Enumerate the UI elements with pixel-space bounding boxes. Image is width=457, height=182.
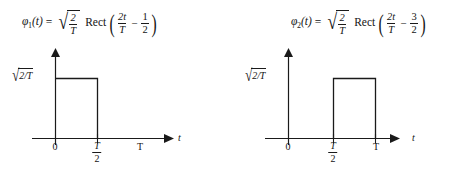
plot-svg-phi1: [0, 0, 228, 182]
origin-label: 0: [286, 141, 291, 152]
basis-function-figure-pair: φ1(t) = √ 2 T Rect ( 2t T − 1 2: [0, 0, 457, 182]
y-axis-arrow-icon: [284, 48, 293, 57]
y-axis-arrow-icon: [51, 48, 60, 57]
x-axis-label: t: [412, 132, 415, 143]
tick-numerator: T: [92, 141, 102, 152]
y-axis-amplitude-label: √ 2/T: [243, 68, 266, 85]
plot-phi2: √ 2/T 0 T 2 T t: [229, 0, 457, 182]
radical-sign: √: [245, 67, 252, 84]
panel-phi2: φ2(t) = √ 2 T Rect ( 2t T − 3 2: [229, 0, 457, 182]
origin-label: 0: [53, 141, 58, 152]
tick-denominator: 2: [329, 152, 338, 164]
y-axis-amplitude-label: √ 2/T: [10, 68, 33, 85]
tick-numerator: T: [328, 141, 338, 152]
tick-label-T-over-2: T 2: [92, 141, 102, 164]
pulse-outline: [334, 79, 376, 139]
x-axis-label: t: [178, 132, 181, 143]
tick-denominator: 2: [93, 152, 102, 164]
tick-label-T: T: [373, 141, 379, 152]
radicand: 2/T: [251, 68, 266, 85]
radicand: 2/T: [18, 68, 33, 85]
panel-phi1: φ1(t) = √ 2 T Rect ( 2t T − 1 2: [0, 0, 228, 182]
plot-svg-phi2: [229, 0, 457, 182]
x-axis-arrow-icon: [390, 134, 400, 143]
plot-phi1: √ 2/T 0 T 2 T t: [0, 0, 228, 182]
tick-label-T-over-2: T 2: [328, 141, 338, 164]
pulse-outline: [56, 79, 98, 139]
x-axis-arrow-icon: [164, 134, 174, 143]
radical-sign: √: [12, 67, 19, 84]
tick-label-T: T: [137, 141, 143, 152]
